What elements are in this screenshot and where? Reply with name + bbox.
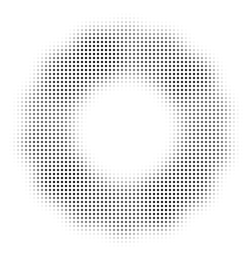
halftone-ring-graphic <box>0 0 252 260</box>
halftone-dot-field <box>0 0 252 260</box>
halftone-ring-image <box>0 0 252 260</box>
